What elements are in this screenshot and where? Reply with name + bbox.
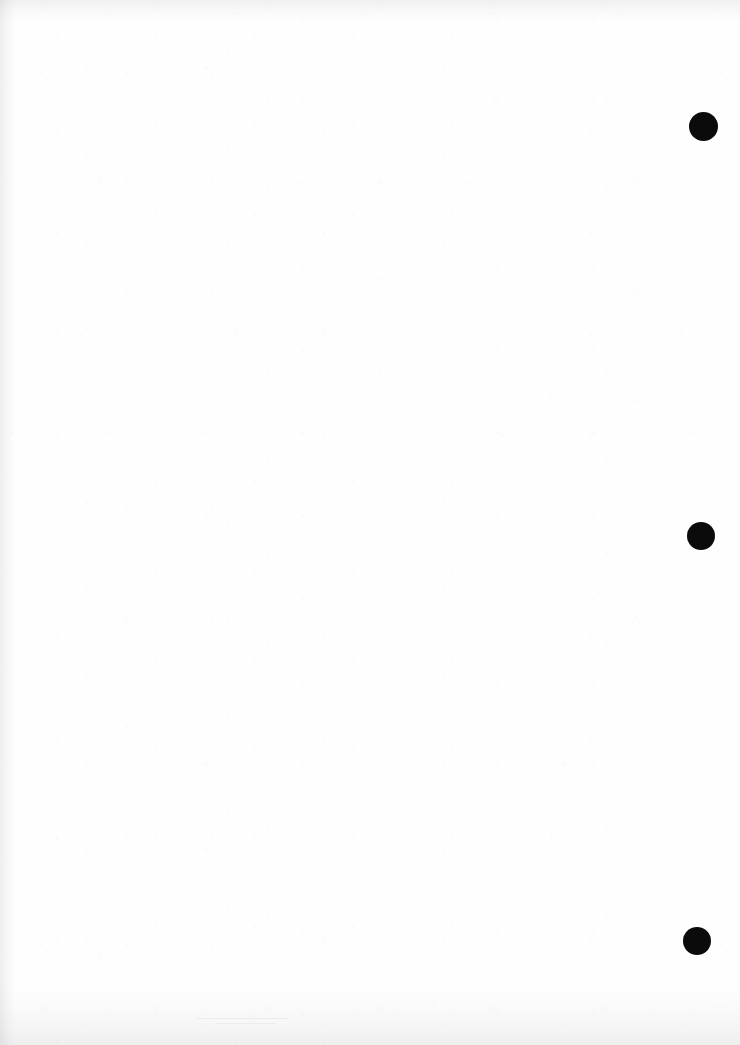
punch-mark-middle: [687, 522, 715, 550]
scanned-page: [0, 0, 740, 1045]
paper-surface: [0, 0, 740, 1045]
punch-mark-bottom: [683, 927, 711, 955]
punch-mark-top: [689, 112, 718, 141]
